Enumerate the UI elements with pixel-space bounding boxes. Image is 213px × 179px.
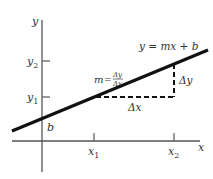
x1-label: x1 [88,145,99,160]
slope-numerator: Δy [112,71,123,79]
slope-equals: = [104,75,112,85]
x2-label: x2 [168,145,179,160]
x-axis-label: x [198,141,205,154]
delta-x-label: Δx [127,101,142,113]
slope-formula: m = Δy Δx [94,71,123,88]
delta-y-label: Δy [178,74,194,86]
y-axis-label: y [31,15,39,28]
slope-denominator: Δx [112,80,122,88]
intercept-label: b [47,121,54,134]
slope-diagram: y x y2 y1 x1 x2 b y = mx + b m = Δy Δx Δ… [0,0,213,179]
slope-m: m [94,74,103,85]
line-equation: y = mx + b [138,40,199,52]
y1-label: y1 [26,91,38,106]
y2-label: y2 [26,55,38,70]
